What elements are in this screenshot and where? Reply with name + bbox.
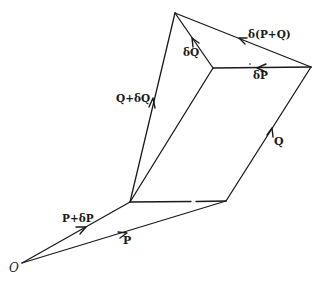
vector-q-plus-dq	[130, 13, 175, 202]
arrow-icon-p-plus-dp	[76, 227, 86, 234]
vector-dp	[213, 67, 311, 68]
label-p-plus-dp: P+δP	[62, 212, 94, 224]
segment-a-b-part1	[130, 202, 191, 203]
label-origin: O	[9, 261, 19, 275]
label-q: Q	[274, 135, 284, 148]
segment-a-e	[130, 68, 213, 202]
label-d-p-plus-q: δ(P+Q)	[248, 28, 291, 41]
label-dp: δP	[253, 69, 268, 81]
dot-marker	[249, 63, 251, 65]
vector-dq	[175, 13, 213, 68]
vector-diagram: O P P+δP Q Q+δQ δQ δP δ(P+Q)	[0, 0, 317, 284]
segment-a-b-part2	[196, 201, 226, 202]
label-p: P	[123, 234, 131, 247]
label-q-plus-dq: Q+δQ	[116, 92, 150, 105]
label-dq: δQ	[183, 46, 199, 59]
